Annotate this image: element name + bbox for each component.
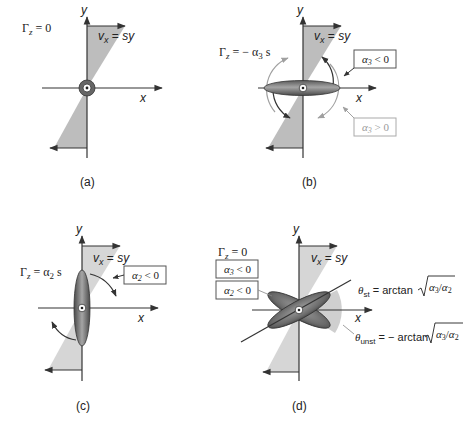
figure-canvas: y x Γz = 0 vx = sy (a) y x Γz = − α3 s v… [0,0,473,423]
panel-caption: (c) [76,399,90,413]
gamma-label: Γz = 0 [22,21,51,37]
panel-caption: (a) [80,175,95,189]
annotation-alpha3-negative: α3 < 0 [362,53,389,67]
annotation-alpha3-positive: α3 > 0 [362,121,389,135]
flow-label: vx = sy [98,29,135,45]
y-axis-label: y [296,3,304,17]
x-axis-label: x [139,91,147,105]
shear-flow-shade [54,88,87,148]
annotation-leader [343,107,354,118]
panel-c: y x Γz = α2 s vx = sy α2 < 0 (c) [20,222,166,413]
panel-b: y x Γz = − α3 s vx = sy α3 < 0 α3 > 0 (b… [219,3,396,189]
gamma-label: Γz = α2 s [20,265,62,281]
theta-unstable-label: θunst = − arctan [355,331,428,346]
gamma-label: Γz = 0 [218,245,247,261]
x-axis-label: x [354,311,362,325]
flow-label: vx = sy [314,29,351,45]
annotation-alpha2-negative: α2 < 0 [224,284,251,298]
annotation-alpha3-negative: α3 < 0 [224,263,251,277]
y-axis-label: y [80,3,88,17]
theta-stable-label: θst = arctan [358,284,413,299]
annotation-leader [113,275,124,278]
x-axis-label: x [137,311,145,325]
y-axis-label: y [292,222,300,236]
annotation-leader [343,325,354,334]
panel-caption: (d) [292,399,307,413]
annotation-leader [344,68,354,76]
panel-a: y x Γz = 0 vx = sy (a) [22,3,162,189]
sqrt-argument: α3/α2 [436,328,459,342]
annotation-alpha2-negative: α2 < 0 [132,269,159,283]
x-axis-label: x [355,91,363,105]
y-axis-label: y [75,222,83,236]
flow-label: vx = sy [93,251,130,267]
panel-caption: (b) [302,175,317,189]
sqrt-argument: α3/α2 [429,281,452,295]
gamma-label: Γz = − α3 s [219,45,271,61]
panel-d: y x Γz = 0 vx = sy α3 < 0 α2 < 0 θst = a… [216,222,463,413]
flow-label: vx = sy [311,251,348,267]
